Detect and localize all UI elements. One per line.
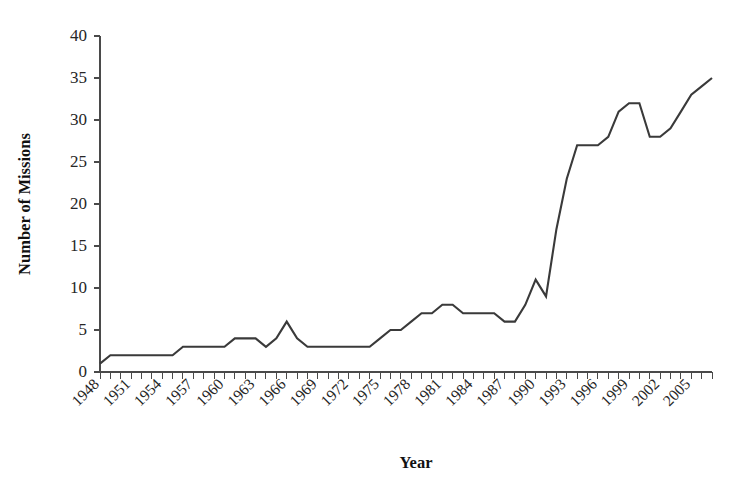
x-tick-label: 1984 [442,375,476,409]
x-tick-label: 2002 [628,375,662,409]
x-tick-label: 1975 [348,375,382,409]
x-tick-label: 2005 [659,375,693,409]
y-axis-title: Number of Missions [15,133,34,275]
y-tick-label: 40 [70,26,87,45]
x-tick-label: 1972 [317,375,351,409]
x-tick-label: 1957 [162,375,196,409]
y-tick-label: 35 [70,68,87,87]
y-tick-label: 5 [79,320,88,339]
x-tick-label: 1981 [410,375,444,409]
x-tick-label: 1993 [535,375,569,409]
x-tick-label: 1960 [193,375,227,409]
data-series-line [100,78,712,364]
y-tick-label: 0 [79,362,88,381]
x-tick-label: 1990 [504,375,538,409]
x-tick-label: 1999 [597,375,631,409]
y-tick-label: 30 [70,110,87,129]
x-tick-label: 1954 [130,375,164,409]
y-tick-label: 25 [70,152,87,171]
chart-container: 0510152025303540194819511954195719601963… [0,0,733,487]
y-tick-label: 10 [70,278,87,297]
line-chart: 0510152025303540194819511954195719601963… [0,0,733,487]
y-tick-label: 15 [70,236,87,255]
x-tick-label: 1996 [566,375,600,409]
x-tick-label: 1966 [255,375,289,409]
x-tick-label: 1987 [473,375,507,409]
x-tick-label: 1951 [99,375,133,409]
x-tick-label: 1978 [379,375,413,409]
x-tick-label: 1948 [68,375,102,409]
x-tick-label: 1969 [286,375,320,409]
x-axis-title: Year [400,453,433,472]
x-tick-label: 1963 [224,375,258,409]
y-tick-label: 20 [70,194,87,213]
